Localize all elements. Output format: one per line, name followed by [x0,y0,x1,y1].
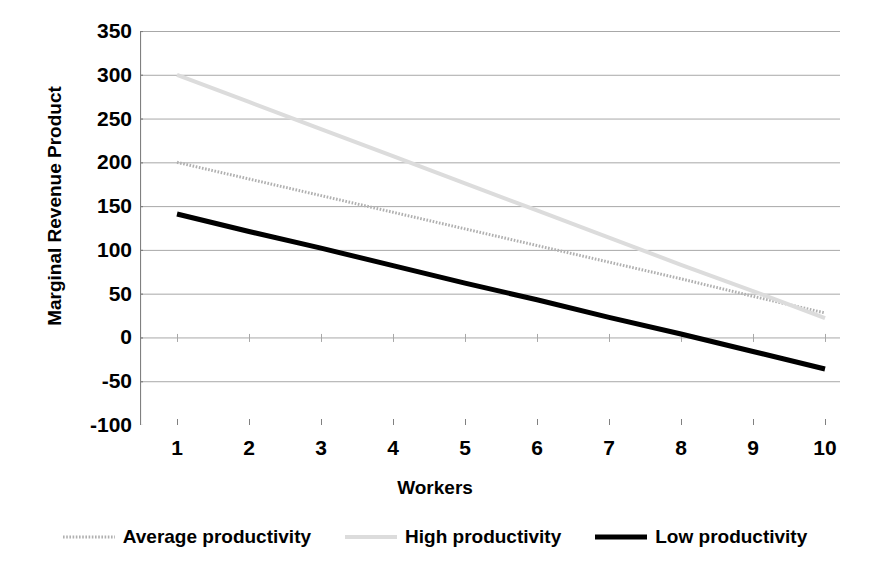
x-tick-label: 1 [147,437,207,458]
y-axis-tick-labels: 350300250200150100500-50-100 [40,0,132,460]
series-line-high-productivity [177,75,825,318]
x-axis-tick-labels: 12345678910 [0,437,870,467]
legend-line-swatch [345,530,397,544]
x-tick-label: 4 [363,437,423,458]
legend-line-swatch [63,530,115,544]
x-tick-label: 7 [579,437,639,458]
plot-area [140,31,840,425]
series-line-low-productivity [177,214,825,369]
y-tick-label: -100 [46,414,132,435]
y-tick-label: 50 [46,283,132,304]
plot-svg [140,31,840,425]
legend-item[interactable]: High productivity [345,526,561,548]
x-tick-label: 8 [651,437,711,458]
chart-container: Marginal Revenue Product 350300250200150… [0,0,870,561]
y-tick-label: 300 [46,64,132,85]
legend-item[interactable]: Low productivity [595,526,807,548]
x-tick-label: 9 [723,437,783,458]
x-axis-title: Workers [0,477,870,499]
legend-line-swatch [595,530,647,544]
y-tick-label: -50 [46,370,132,391]
x-tick-label: 10 [795,437,855,458]
chart-legend: Average productivityHigh productivityLow… [0,521,870,553]
y-tick-label: 350 [46,20,132,41]
x-tick-label: 2 [219,437,279,458]
legend-label: High productivity [405,526,561,548]
y-tick-label: 200 [46,151,132,172]
legend-item[interactable]: Average productivity [63,526,311,548]
y-tick-label: 250 [46,108,132,129]
x-tick-label: 5 [435,437,495,458]
x-tick-label: 3 [291,437,351,458]
legend-label: Average productivity [123,526,311,548]
x-tick-label: 6 [507,437,567,458]
y-tick-label: 150 [46,195,132,216]
legend-label: Low productivity [655,526,807,548]
y-tick-label: 100 [46,239,132,260]
y-tick-label: 0 [46,326,132,347]
